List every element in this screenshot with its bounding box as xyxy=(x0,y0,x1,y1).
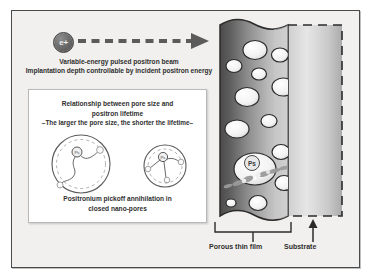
positron-annihilation-figure: Ps xyxy=(0,0,372,280)
porous-film-label: Porous thin film xyxy=(209,243,262,250)
figure-frame: Ps xyxy=(11,10,360,268)
panel-caption-line1: Positronium pickoff annihilation in xyxy=(29,194,206,204)
dashed-arrow-right-icon xyxy=(78,33,209,49)
positron-source-label: e+ xyxy=(59,38,68,47)
large-pore-diagram: Ps xyxy=(52,135,110,193)
panel-title: Relationship between pore size and posit… xyxy=(29,99,206,118)
small-pore-diagram: Ps xyxy=(144,145,186,187)
panel-caption: Positronium pickoff annihilation in clos… xyxy=(29,194,206,213)
pore-diagrams-svg: Ps Ps xyxy=(29,130,208,202)
panel-subtitle: –The larger the pore size, the shorter t… xyxy=(29,118,206,127)
panel-caption-line2: closed nano-pores xyxy=(29,204,206,214)
positron-source-icon: e+ xyxy=(53,32,74,53)
beam-caption: Variable-energy pulsed positron beam Imp… xyxy=(16,57,222,75)
substrate-label: Substrate xyxy=(284,243,316,250)
beam-caption-line2: Implantation depth controllable by incid… xyxy=(16,66,222,75)
large-pore-ps-label: Ps xyxy=(74,150,80,155)
pore-comparison-diagrams: Ps Ps xyxy=(29,130,206,202)
pore-lifetime-panel: Relationship between pore size and posit… xyxy=(28,89,207,223)
beam-caption-line1: Variable-energy pulsed positron beam xyxy=(16,57,222,66)
panel-title-line2: positron lifetime xyxy=(35,109,200,119)
panel-title-line1: Relationship between pore size and xyxy=(35,99,200,109)
figure-canvas: Ps xyxy=(12,11,359,267)
small-pore-ps-label: Ps xyxy=(161,155,166,160)
